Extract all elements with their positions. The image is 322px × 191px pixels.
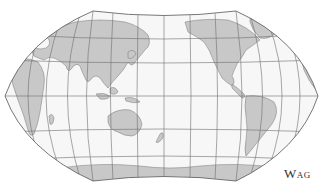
antarctica (60, 164, 280, 191)
projection-caption: Wag (284, 166, 311, 182)
world-map (0, 0, 322, 191)
